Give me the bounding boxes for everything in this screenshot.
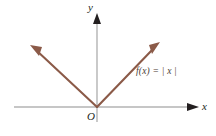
graph-canvas — [0, 0, 216, 136]
origin-label: O — [87, 111, 95, 122]
function-equation-label: f(x) = | x | — [136, 67, 177, 77]
x-axis-label: x — [202, 101, 207, 112]
x-axis-arrow-icon — [187, 103, 199, 111]
absolute-value-function-graph: y x O f(x) = | x | — [0, 0, 216, 136]
function-right-ray — [97, 48, 154, 107]
y-axis-label: y — [88, 2, 93, 13]
y-axis-arrow-icon — [93, 13, 101, 24]
function-left-ray — [36, 50, 97, 107]
